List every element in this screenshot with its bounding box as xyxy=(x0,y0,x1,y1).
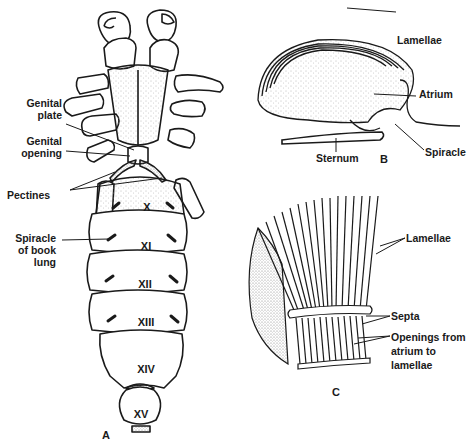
panel-letter-a: A xyxy=(102,429,110,441)
segment-label-xv: XV xyxy=(134,408,149,420)
label-line: of book xyxy=(4,244,56,256)
label-genital-opening: Genital opening xyxy=(4,135,62,159)
label-b-lamellae: Lamellae xyxy=(397,34,442,46)
label-line: atrium to xyxy=(391,344,466,358)
label-b-spiracle: Spiracle xyxy=(425,146,466,158)
segment-xiv xyxy=(100,330,183,388)
label-c-lamellae: Lamellae xyxy=(406,232,451,244)
label-c-openings: Openings from atrium to lamellae xyxy=(391,330,466,372)
segment-label-xii: XII xyxy=(138,278,151,290)
label-line: Genital xyxy=(6,97,62,109)
label-b-sternum: Sternum xyxy=(316,152,359,164)
panel-letter-c: C xyxy=(332,386,340,398)
diagram-canvas xyxy=(0,0,473,448)
segment-label-xi: XI xyxy=(141,240,151,252)
segment-label-x: X xyxy=(143,201,150,213)
label-b-atrium: Atrium xyxy=(419,88,453,100)
segment-label-xiv: XIV xyxy=(137,363,155,375)
label-genital-plate: Genital plate xyxy=(6,97,62,121)
label-line: Genital xyxy=(4,135,62,147)
septa-lines xyxy=(296,316,366,364)
lamellae-detail-drawing xyxy=(249,196,405,369)
label-line: plate xyxy=(6,109,62,121)
label-line: opening xyxy=(4,147,62,159)
book-lung-section-drawing xyxy=(258,8,460,152)
label-spiracle-of-book-lung: Spiracle of book lung xyxy=(4,232,56,268)
label-line: Openings from xyxy=(391,330,466,344)
segment-xi xyxy=(89,210,187,253)
coxae-upper xyxy=(98,10,178,71)
label-line: Spiracle xyxy=(4,232,56,244)
label-pectines: Pectines xyxy=(7,189,50,201)
label-line: lamellae xyxy=(391,358,466,372)
label-line: lung xyxy=(4,256,56,268)
segment-xii xyxy=(87,250,187,293)
label-c-septa: Septa xyxy=(391,310,420,322)
panel-letter-b: B xyxy=(380,153,388,165)
segment-label-xiii: XIII xyxy=(138,316,155,328)
